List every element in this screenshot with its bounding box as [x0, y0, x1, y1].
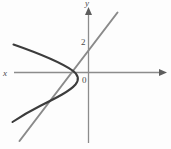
- x-axis: [14, 69, 167, 76]
- y-tick-label-2: 2: [81, 38, 86, 47]
- y-axis-up-arrow-icon: [85, 7, 92, 15]
- x-axis-label: x: [3, 69, 7, 78]
- parabola-curve: [13, 45, 78, 123]
- x-axis-right-arrow-icon: [159, 69, 167, 76]
- y-axis-label: y: [85, 0, 89, 8]
- math-figure: x y 2 0: [0, 0, 171, 149]
- straight-line-curve: [20, 13, 118, 142]
- origin-label: 0: [82, 76, 87, 85]
